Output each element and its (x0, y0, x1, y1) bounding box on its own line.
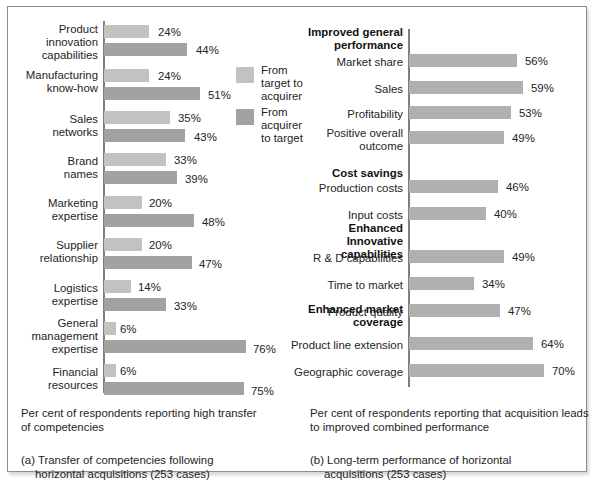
panel-b-value-label: 47% (508, 305, 531, 318)
panel-b-value-label: 70% (552, 365, 575, 378)
panel-b-value-label: 34% (482, 278, 505, 291)
panel-b-value-label: 49% (512, 251, 535, 264)
legend-swatch-light-icon (236, 67, 254, 83)
panel-b-value-label: 40% (494, 208, 517, 221)
panel-a-value-label: 6% (120, 323, 136, 336)
panel-a-value-label: 48% (202, 216, 225, 229)
panel-a-value-label: 24% (158, 26, 181, 39)
panel-a-value-label: 35% (178, 112, 201, 125)
figure-container: Product innovation capabilities24%44%Man… (7, 6, 587, 472)
panel-a-value-label: 20% (149, 197, 172, 210)
panel-b-bar (409, 364, 544, 377)
panel-b-category-label: Positive overall outcome (296, 127, 403, 153)
panel-b-category-label: Geographic coverage (288, 366, 403, 379)
panel-a-value-label: 14% (138, 281, 161, 294)
panel-a-value-label: 6% (120, 365, 136, 378)
panel-a-category-label: Brand names (10, 155, 98, 181)
panel-a-bar-light (104, 111, 170, 124)
panel-a-caption: (a) Transfer of competencies following h… (21, 439, 291, 490)
panel-a-value-label: 75% (251, 385, 274, 398)
panel-a-value-label: 44% (196, 44, 219, 57)
panel-b-category-label: Product line extension (284, 339, 403, 352)
panel-b-category-label: R & D capabilities (296, 252, 403, 265)
panel-b-bar (409, 131, 504, 144)
panel-b-bar (409, 277, 474, 290)
panel-b-value-label: 53% (519, 107, 542, 120)
panel-b-category-label: Profitability (296, 108, 403, 121)
panel-a-category-label: Supplier relationship (10, 239, 98, 265)
panel-a-category-label: Sales networks (10, 113, 98, 139)
panel-a-bar-dark (104, 214, 194, 227)
panel-b-bar (409, 106, 511, 119)
panel-b-group-heading: Enhanced market coverage (296, 303, 403, 329)
panel-b-value-label: 59% (531, 82, 554, 95)
panel-a-value-label: 43% (194, 131, 217, 144)
panel-a-bar-light (104, 196, 142, 209)
panel-b-category-label: Input costs (296, 209, 403, 222)
panel-a-bar-dark (104, 87, 200, 100)
panel-a-value-label: 76% (253, 343, 276, 356)
panel-b-value-label: 49% (512, 132, 535, 145)
panel-a-value-label: 47% (199, 258, 222, 271)
panel-a-bar-dark (104, 43, 187, 56)
panel-b-axis-note: Per cent of respondents reporting that a… (310, 406, 590, 434)
panel-a-category-label: Logistics expertise (10, 282, 98, 308)
panel-b-caption-line1: (b) Long-term performance of horizontal (310, 454, 511, 466)
panel-b-category-label: Sales (296, 83, 403, 96)
panel-b-category-label: Time to market (296, 279, 403, 292)
panel-a-bar-dark (104, 171, 177, 184)
panel-a-category-label: General management expertise (10, 317, 98, 357)
panel-a-bar-dark (104, 256, 192, 269)
panel-b-bar (409, 207, 486, 220)
panel-a-category-label: Financial resources (10, 366, 98, 392)
panel-a-value-label: 51% (208, 89, 231, 102)
panel-b-caption: (b) Long-term performance of horizontal … (310, 439, 590, 490)
panel-a-bar-light (104, 280, 131, 293)
panel-a-bar-dark (104, 382, 244, 395)
panel-a-category-label: Marketing expertise (10, 197, 98, 223)
panel-b-category-label: Production costs (296, 182, 403, 195)
panel-a-category-label: Manufacturing know-how (10, 69, 98, 95)
panel-a-value-label: 24% (158, 70, 181, 83)
panel-a-caption-line2: horizontal acquisitions (253 cases) (21, 467, 291, 481)
panel-a-bar-light (104, 25, 149, 38)
panel-a-bar-dark (104, 129, 185, 142)
panel-a-bar-light (104, 238, 142, 251)
panel-a-bar-light (104, 322, 116, 335)
panel-a-bar-light (104, 153, 166, 166)
panel-b-category-label: Market share (296, 56, 403, 69)
panel-a-axis-note: Per cent of respondents reporting high t… (21, 406, 291, 434)
panel-b-value-label: 64% (541, 338, 564, 351)
panel-a-bar-light (104, 364, 116, 377)
panel-a-value-label: 33% (174, 154, 197, 167)
panel-b-bar (409, 250, 504, 263)
panel-b-value-label: 56% (525, 55, 548, 68)
panel-a-bar-dark (104, 298, 166, 311)
panel-a-bar-dark (104, 340, 246, 353)
panel-b-bar (409, 337, 533, 350)
panel-b-caption-line2: acquisitions (253 cases) (310, 467, 590, 481)
panel-a-bar-light (104, 69, 149, 82)
panel-b-bar (409, 81, 523, 94)
panel-a-category-label: Product innovation capabilities (10, 23, 98, 63)
panel-a-caption-line1: (a) Transfer of competencies following (21, 454, 213, 466)
legend-swatch-dark-icon (236, 109, 254, 125)
panel-a-value-label: 39% (185, 173, 208, 186)
panel-b-bar (409, 180, 498, 193)
panel-a-value-label: 20% (149, 239, 172, 252)
panel-b-group-heading: Improved general performance (296, 26, 403, 52)
panel-b-bar (409, 304, 500, 317)
panel-b-group-heading: Cost savings (296, 167, 403, 180)
panel-b-value-label: 46% (506, 181, 529, 194)
panel-b-long-term-performance: Improved general performanceMarket share… (296, 7, 588, 471)
panel-a-value-label: 33% (174, 300, 197, 313)
panel-b-bar (409, 54, 517, 67)
